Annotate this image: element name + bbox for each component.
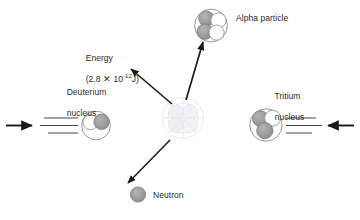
deuterium-label-line1: Deuterium [67,87,107,97]
deuterium-label: Deuterium nucleus [57,76,106,129]
reaction-center-ghost [163,98,204,139]
neutron-label: Neutron [153,190,184,201]
energy-label-line1: Energy [86,53,113,63]
diagram-canvas [0,0,360,220]
alpha-particle-label: Alpha particle [236,13,288,24]
alpha-emission-arrow [186,42,203,100]
energy-unit: J) [132,74,139,84]
tritium-label: Tritium nucleus [265,80,304,133]
deuterium-label-line2: nucleus [67,108,97,118]
fusion-diagram: Energy (2.8 ✕ 10-12J) Deuterium nucleus … [0,0,360,220]
neutron-emission-arrow [128,140,170,183]
energy-base: 10 [111,74,123,84]
tritium-label-line1: Tritium [275,91,301,101]
tritium-label-line2: nucleus [275,112,305,122]
energy-exponent: -12 [123,73,132,79]
alpha-particle [195,9,228,42]
neutron-particle [130,187,145,202]
alpha-nucleon-plain-2 [209,25,224,40]
